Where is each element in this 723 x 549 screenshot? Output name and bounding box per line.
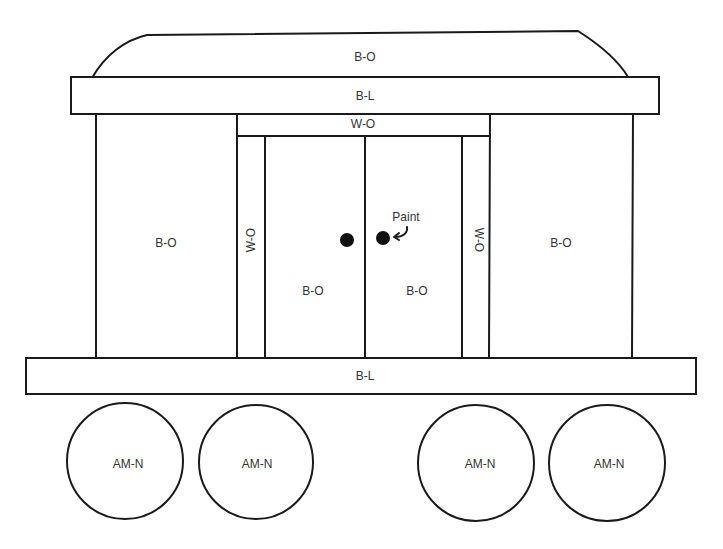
left-door-knob	[340, 233, 354, 247]
right-door-label: B-O	[406, 284, 427, 298]
left-pillar-label: W-O	[244, 228, 258, 252]
wheel-label: AM-N	[594, 457, 625, 471]
curved-arrow-icon	[394, 227, 407, 240]
bottom-bar-label: B-L	[356, 369, 375, 383]
bottom-bar: B-L	[26, 358, 696, 394]
train-car-diagram: B-O B-L B-O B-O W-O W-O W-O B-O B-O Pain…	[0, 0, 723, 549]
wheel-label: AM-N	[465, 457, 496, 471]
right-panel-label: B-O	[550, 236, 571, 250]
right-door-knob	[376, 231, 390, 245]
roof-label: B-O	[354, 50, 375, 64]
wheel-3: AM-N	[418, 405, 534, 521]
wheel-4: AM-N	[549, 405, 665, 521]
wheel-label: AM-N	[242, 457, 273, 471]
roof: B-O	[92, 31, 628, 78]
top-bar-label: B-L	[356, 89, 375, 103]
body-right-edge	[632, 114, 633, 358]
left-panel-label: B-O	[155, 236, 176, 250]
wheel-label: AM-N	[113, 457, 144, 471]
paint-annotation-label: Paint	[392, 210, 420, 224]
wheel-1: AM-N	[67, 403, 183, 519]
door-frame-right	[489, 114, 490, 358]
door-frame: W-O	[237, 114, 490, 358]
left-door-label: B-O	[302, 284, 323, 298]
wheel-2: AM-N	[199, 405, 313, 519]
door-header-label: W-O	[351, 117, 375, 131]
right-pillar-label: W-O	[472, 228, 486, 252]
top-bar: B-L	[71, 77, 659, 114]
